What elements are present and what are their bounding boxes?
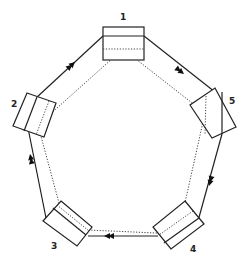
node-label-3: 3 [51,241,57,251]
node-4 [153,201,204,249]
node-label-4: 4 [190,244,196,254]
ring-diagram: 1 2 3 4 5 [0,0,248,261]
node-label-1: 1 [120,12,126,22]
node-label-2: 2 [11,99,17,109]
node-1 [103,27,144,60]
node-2 [13,93,56,137]
node-3 [43,201,92,246]
node-label-5: 5 [229,96,235,106]
arrow-4-to-3-icon [104,233,114,239]
